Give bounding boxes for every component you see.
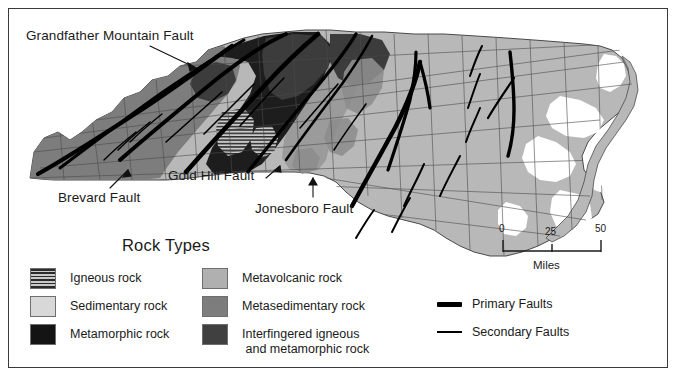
annotation-jonesboro-fault: Jonesboro Fault — [255, 201, 353, 216]
annotation-gold-hill-fault: Gold Hill Fault — [168, 168, 254, 183]
legend-label-metamorphic: Metamorphic rock — [70, 324, 169, 342]
legend-label-primary-faults: Primary Faults — [472, 297, 553, 311]
legend-label-secondary-faults: Secondary Faults — [472, 325, 569, 339]
legend-item-metavolcanic-rock: Metavolcanic rock — [202, 268, 342, 289]
scalebar-units: Miles — [533, 259, 560, 271]
scale-tick-0: 0 — [499, 223, 505, 234]
legend-swatch-metamorphic — [30, 324, 56, 345]
legend-label-sedimentary: Sedimentary rock — [70, 296, 167, 314]
legend-swatch-metasedimentary — [202, 296, 228, 317]
legend-swatch-sedimentary — [30, 296, 56, 317]
geologic-map-figure: Grandfather Mountain Fault Brevard Fault… — [0, 0, 677, 377]
legend-item-igneous-rock: Igneous rock — [30, 268, 142, 289]
map-canvas — [0, 0, 677, 377]
legend-item-metasedimentary-rock: Metasedimentary rock — [202, 296, 365, 317]
map-geology-layer — [30, 30, 638, 256]
legend-item-sedimentary-rock: Sedimentary rock — [30, 296, 167, 317]
legend-item-interfingered-rock: Interfingered igneous and metamorphic ro… — [202, 324, 369, 356]
legend-title: Rock Types — [122, 236, 210, 255]
legend-label-metavolcanic: Metavolcanic rock — [242, 268, 342, 286]
annotation-brevard-fault: Brevard Fault — [58, 190, 140, 205]
legend-item-metamorphic-rock: Metamorphic rock — [30, 324, 169, 345]
legend-swatch-igneous — [30, 268, 56, 289]
legend-label-igneous: Igneous rock — [70, 268, 142, 286]
scale-tick-50: 50 — [595, 223, 606, 234]
scalebar: 0 25 50 — [497, 232, 607, 260]
scale-tick-25: 25 — [545, 226, 556, 237]
legend-label-interfingered: Interfingered igneous and metamorphic ro… — [242, 324, 369, 356]
annotation-grandfather-mountain-fault: Grandfather Mountain Fault — [26, 28, 194, 43]
legend-label-metasedimentary: Metasedimentary rock — [242, 296, 365, 314]
primary-fault-line-icon — [437, 302, 462, 307]
legend-swatch-interfingered — [202, 324, 228, 345]
legend-swatch-metavolcanic — [202, 268, 228, 289]
legend-item-secondary-faults: Secondary Faults — [437, 325, 569, 339]
legend-item-primary-faults: Primary Faults — [437, 297, 553, 311]
secondary-fault-line-icon — [437, 331, 462, 333]
